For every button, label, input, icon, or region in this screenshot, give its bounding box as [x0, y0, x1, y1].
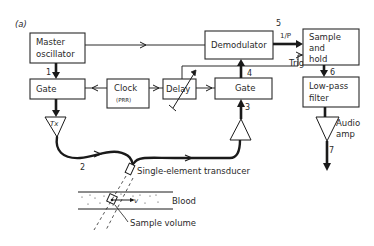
arrow-down-icon [323, 163, 331, 171]
sample-volume-leader [115, 205, 128, 222]
arrow-up-icon [237, 99, 245, 107]
transducer-label: Single-element transducer [137, 166, 250, 176]
output-1p-label: 1/P [280, 32, 291, 40]
node-number-5: 5 [276, 19, 281, 28]
beam-edge-right [106, 178, 133, 230]
clock-block: Clock (PRR) [107, 79, 149, 108]
svg-text:Tx: Tx [50, 120, 59, 128]
svg-text:and: and [309, 43, 325, 53]
node-number-4: 4 [247, 69, 252, 78]
svg-text:Gate: Gate [235, 83, 255, 93]
pulsed-doppler-block-diagram: (a) Master oscillator 1 Gate Clock (PRR)… [0, 0, 374, 246]
sample-and-hold-block: Sample and hold [303, 29, 359, 65]
rx-amplifier-triangle-icon [230, 119, 251, 140]
svg-text:Demodulator: Demodulator [211, 40, 267, 50]
svg-text:(PRR): (PRR) [116, 97, 131, 103]
audio-amp-label: Audio [336, 118, 360, 128]
blood-label: Blood [172, 196, 196, 206]
sample-volume-icon [107, 194, 118, 205]
node-number-6: 6 [330, 68, 335, 77]
svg-text:oscillator: oscillator [36, 49, 75, 59]
svg-text:filter: filter [309, 93, 329, 103]
svg-text:hold: hold [309, 54, 327, 64]
node-number-3: 3 [245, 103, 250, 112]
demodulator-block: Demodulator [205, 31, 273, 59]
svg-text:Sample: Sample [309, 32, 341, 42]
transducer-icon [125, 163, 135, 175]
delay-block: Delay [163, 70, 196, 111]
arrow-right-icon [296, 40, 303, 48]
trig-label: Trig [288, 58, 304, 68]
svg-text:Clock: Clock [114, 83, 137, 93]
svg-text:Master: Master [36, 37, 66, 47]
arrow-down-icon [52, 72, 60, 79]
gate-tx-block: Gate [30, 79, 85, 99]
low-pass-filter-block: Low-pass filter [303, 77, 359, 107]
audio-amp-label-2: amp [336, 129, 355, 139]
arrow-up-icon [237, 59, 245, 66]
node-number-7: 7 [329, 146, 334, 155]
arrow-down-icon [52, 110, 60, 117]
node-number-1: 1 [46, 68, 51, 77]
velocity-label: v [134, 197, 139, 205]
tx-amplifier-triangle-icon: Tx [45, 117, 66, 137]
svg-text:Gate: Gate [36, 84, 56, 94]
svg-text:Low-pass: Low-pass [309, 81, 349, 91]
arrow-down-icon [320, 70, 328, 77]
sample-volume-label: Sample volume [130, 218, 196, 228]
panel-label: (a) [15, 19, 27, 29]
gate-rx-block: Gate [215, 78, 272, 99]
master-oscillator-block: Master oscillator [30, 33, 85, 63]
node-number-2: 2 [80, 163, 85, 172]
